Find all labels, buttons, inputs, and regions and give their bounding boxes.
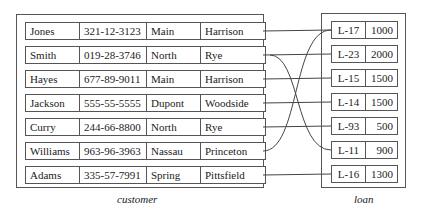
link-curry-l93 — [263, 126, 331, 127]
link-smith-l23 — [263, 54, 331, 55]
link-jackson-l14 — [263, 102, 331, 103]
relationship-lines — [0, 0, 423, 210]
link-williams-l17 — [263, 30, 331, 151]
link-jones-l17 — [263, 30, 331, 31]
link-adams-l16 — [263, 174, 331, 175]
link-hayes-l15 — [263, 78, 331, 79]
